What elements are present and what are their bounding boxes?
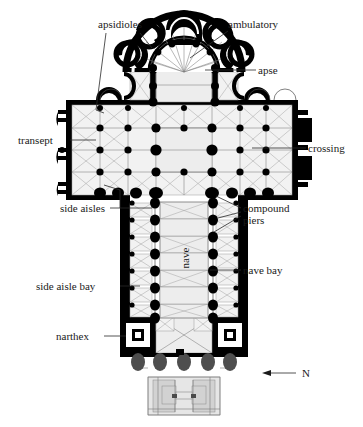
label-compound-piers-1: compound: [243, 202, 290, 214]
label-side-aisle-bay: side aisle bay: [36, 280, 96, 292]
narthex-block: [120, 317, 248, 371]
label-crossing: crossing: [308, 142, 345, 154]
figure-canvas: apsidioles ambulatory apse transept cros…: [0, 0, 363, 427]
label-transept: transept: [18, 134, 53, 146]
label-apsidioles: apsidioles: [98, 18, 142, 30]
cathedral-plan-drawing: apsidioles ambulatory apse transept cros…: [0, 0, 363, 427]
label-side-aisles: side aisles: [60, 202, 105, 214]
label-nave: nave: [179, 248, 191, 269]
label-narthex: narthex: [56, 330, 89, 342]
label-apse: apse: [258, 64, 278, 76]
label-ambulatory: ambulatory: [228, 18, 279, 30]
former-westwork-ghost: [148, 377, 220, 415]
label-north: N: [302, 367, 310, 379]
label-nave-bay: nave bay: [243, 264, 283, 276]
transept-bays: [72, 105, 292, 195]
label-compound-piers-2: piers: [243, 214, 264, 226]
transept: [56, 100, 312, 200]
